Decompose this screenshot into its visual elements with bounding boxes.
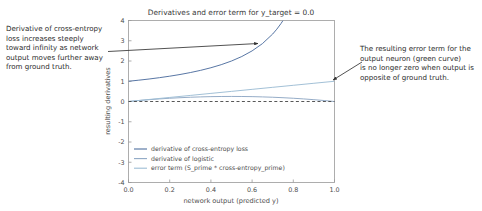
y-tick-label: 0 [120,98,124,106]
x-tick-label: 0.0 [123,186,133,194]
chart-legend: derivative of cross-entropy lossderivati… [134,145,285,172]
x-axis-label: network output (predicted y) [183,197,278,205]
legend-label-2: error term (S_prime * cross-entropy_prim… [151,164,285,172]
x-tick-label: 0.6 [247,186,257,194]
x-axis-ticks: 0.00.20.40.60.81.0 [123,180,339,195]
figure-container: 0.00.20.40.60.81.0 -4-3-2-101234 Derivat… [0,0,482,211]
x-tick-label: 1.0 [329,186,339,194]
y-tick-label: -2 [118,138,124,146]
y-tick-label: 3 [120,37,124,45]
right-annotation-text: The resulting error term for the output … [360,44,478,82]
legend-label-0: derivative of cross-entropy loss [151,145,248,153]
annotation-arrows [108,44,362,81]
chart-title: Derivatives and error term for y_target … [148,8,315,17]
y-tick-label: 4 [120,17,124,25]
y-tick-label: 1 [120,78,124,86]
data-series-layer [129,21,335,102]
y-axis-label: resulting derivatives [104,67,112,135]
left-annotation-arrow [108,44,258,52]
x-tick-label: 0.8 [288,186,298,194]
legend-label-1: derivative of logistic [151,155,214,163]
series-line-1 [129,96,335,101]
y-tick-label: -4 [118,179,124,187]
y-tick-label: -3 [118,159,124,167]
right-annotation-arrow [333,62,362,80]
y-tick-label: -1 [118,118,124,126]
x-tick-label: 0.2 [165,186,175,194]
series-line-0 [129,21,284,82]
left-annotation-text: Derivative of cross-entropy loss increas… [6,24,110,72]
y-tick-label: 2 [120,57,124,65]
x-tick-label: 0.4 [206,186,216,194]
